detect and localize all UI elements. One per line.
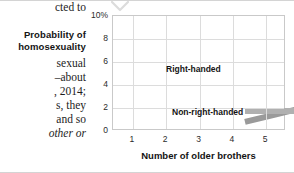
x-axis-tick-label: 3: [189, 134, 209, 144]
series-layer: [225, 31, 294, 146]
gridline-vertical: [133, 16, 134, 129]
x-axis-ticks: 12345: [112, 134, 285, 146]
x-axis-tick-label: 2: [155, 134, 175, 144]
x-axis-tick-label: 5: [255, 134, 275, 144]
y-axis-tick-label: 10%: [76, 11, 108, 20]
gridline-horizontal: [113, 39, 284, 40]
x-axis-title: Number of older brothers: [112, 150, 285, 161]
x-axis-tick-label: 4: [222, 134, 242, 144]
series-label-non-right-handed: Non-right-handed: [172, 107, 243, 117]
chart: 10%86420 Right-handed Non-right-handed 1…: [0, 0, 294, 173]
gridline-vertical: [266, 16, 267, 129]
gridline-horizontal: [113, 62, 284, 63]
series-label-right-handed: Right-handed: [166, 64, 221, 74]
gridline-horizontal: [113, 85, 284, 86]
y-axis-tick-label: 8: [76, 34, 108, 43]
y-axis-ticks: 10%86420: [74, 15, 108, 130]
series-band: [245, 83, 294, 122]
x-axis-tick-label: 1: [122, 134, 142, 144]
figure-page: Probability of homosexuality cted tosexu…: [0, 0, 294, 173]
y-axis-tick-label: 0: [76, 126, 108, 135]
y-axis-tick-label: 2: [76, 103, 108, 112]
y-axis-tick-label: 4: [76, 80, 108, 89]
y-axis-tick-label: 6: [76, 57, 108, 66]
